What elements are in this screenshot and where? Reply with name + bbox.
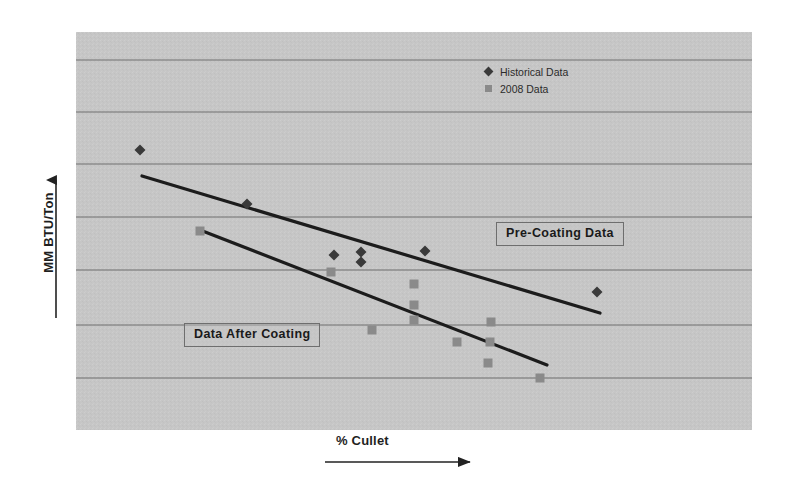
data-point-square xyxy=(327,268,336,277)
chart-legend: Historical Data 2008 Data xyxy=(481,63,568,97)
plot-background xyxy=(76,32,752,430)
data-point-square xyxy=(486,338,495,347)
data-point-square xyxy=(410,301,419,310)
data-point-square xyxy=(536,374,545,383)
legend-label-2008-data: 2008 Data xyxy=(500,83,548,95)
diamond-marker-icon xyxy=(481,68,495,75)
y-axis-label: MM BTU/Ton xyxy=(41,163,56,303)
chart-canvas xyxy=(0,0,785,488)
square-marker-icon xyxy=(481,85,495,92)
legend-label-historical-data: Historical Data xyxy=(500,66,568,78)
data-point-square xyxy=(453,338,462,347)
data-point-square xyxy=(410,280,419,289)
chart-figure: Historical Data 2008 Data Pre-Coating Da… xyxy=(0,0,785,488)
annotation-data-after-coating: Data After Coating xyxy=(184,323,320,347)
data-point-square xyxy=(368,326,377,335)
plot-area xyxy=(76,32,752,430)
legend-item-historical-data: Historical Data xyxy=(481,63,568,80)
data-point-square xyxy=(410,316,419,325)
data-point-square xyxy=(196,227,205,236)
x-axis-label: % Cullet xyxy=(336,433,389,448)
data-point-square xyxy=(487,318,496,327)
data-point-square xyxy=(484,359,493,368)
annotation-pre-coating-data: Pre-Coating Data xyxy=(496,222,624,246)
legend-item-2008-data: 2008 Data xyxy=(481,80,568,97)
